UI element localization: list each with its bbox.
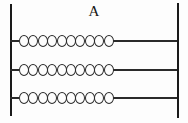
left-stub-icon — [10, 69, 19, 71]
bead-icon — [75, 35, 85, 47]
bead-group — [19, 35, 113, 47]
bead-icon — [94, 64, 104, 76]
right-tail-icon — [113, 40, 177, 42]
bead-icon — [47, 64, 57, 76]
strand-row — [10, 34, 177, 48]
bead-icon — [75, 92, 85, 104]
right-tail-icon — [113, 69, 177, 71]
bead-icon — [47, 35, 57, 47]
bead-icon — [28, 64, 38, 76]
right-rail — [177, 3, 179, 118]
left-stub-icon — [10, 97, 19, 99]
bead-group — [19, 92, 113, 104]
bead-icon — [28, 35, 38, 47]
bead-icon — [47, 92, 57, 104]
bead-icon — [94, 92, 104, 104]
page-title: A — [0, 3, 188, 19]
bead-icon — [75, 64, 85, 76]
bead-group — [19, 64, 113, 76]
left-stub-icon — [10, 40, 19, 42]
strand-row — [10, 63, 177, 77]
bead-icon — [94, 35, 104, 47]
bead-icon — [28, 92, 38, 104]
strand-row — [10, 91, 177, 105]
diagram-canvas: A — [0, 0, 188, 123]
right-tail-icon — [113, 97, 177, 99]
